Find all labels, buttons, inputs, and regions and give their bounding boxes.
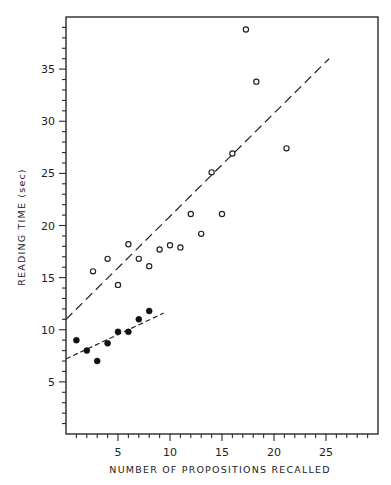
open-circle-point: [178, 245, 183, 250]
open-circle-point: [254, 79, 259, 84]
filled-circle-point: [73, 337, 79, 343]
x-tick-label: 5: [115, 446, 122, 459]
y-tick-label: 5: [48, 376, 55, 389]
x-tick-label: 20: [267, 446, 281, 459]
y-tick-label: 30: [41, 115, 55, 128]
open-circle-point: [284, 146, 289, 151]
open-circle-point: [243, 27, 248, 32]
fit-line-open: [66, 59, 329, 320]
plot-frame: [66, 17, 378, 434]
filled-circle-point: [84, 348, 90, 354]
y-tick-label: 35: [41, 63, 55, 76]
axes: [66, 17, 378, 434]
y-tick-label: 20: [41, 220, 55, 233]
filled-circle-point: [105, 340, 111, 346]
y-tick-label: 25: [41, 167, 55, 180]
y-tick-label: 15: [41, 272, 55, 285]
open-circle-point: [167, 243, 172, 248]
y-axis-label: READING TIME (sec): [16, 168, 27, 286]
open-circle-point: [136, 256, 141, 261]
data-points: [73, 27, 289, 364]
filled-circle-point: [146, 308, 152, 314]
open-circle-point: [126, 242, 131, 247]
open-circle-point: [115, 282, 120, 287]
scatter-chart: 5101520253035 510152025 READING TIME (se…: [0, 0, 391, 485]
open-circle-point: [157, 247, 162, 252]
open-circle-point: [90, 269, 95, 274]
x-axis-label: NUMBER OF PROPOSITIONS RECALLED: [109, 464, 330, 475]
x-tick-label: 10: [163, 446, 177, 459]
open-circle-point: [199, 231, 204, 236]
x-tick-label: 25: [319, 446, 333, 459]
fit-lines: [66, 59, 329, 359]
open-circle-point: [147, 264, 152, 269]
filled-circle-point: [94, 358, 100, 364]
y-tick-label: 10: [41, 324, 55, 337]
filled-circle-point: [115, 329, 121, 335]
open-circle-point: [219, 211, 224, 216]
filled-circle-point: [125, 329, 131, 335]
x-tick-label: 15: [215, 446, 229, 459]
x-axis-ticks: 510152025: [76, 434, 367, 459]
open-circle-point: [209, 170, 214, 175]
open-circle-point: [230, 151, 235, 156]
fit-line-filled: [66, 313, 164, 359]
filled-circle-point: [136, 316, 142, 322]
open-circle-point: [105, 256, 110, 261]
y-axis-ticks: 5101520253035: [41, 27, 66, 423]
open-circle-point: [188, 211, 193, 216]
